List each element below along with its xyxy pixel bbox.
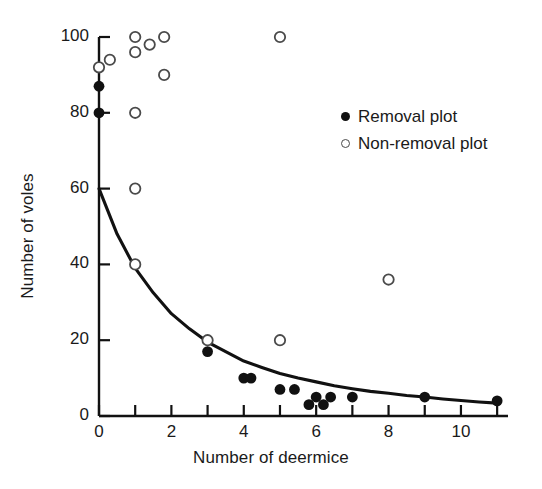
data-point-non-removal — [159, 32, 169, 42]
data-point-non-removal — [159, 70, 169, 80]
y-tick-label: 40 — [45, 253, 89, 273]
data-point-non-removal — [275, 335, 285, 345]
data-point-non-removal — [130, 108, 140, 118]
data-point-non-removal — [383, 274, 393, 284]
data-point-non-removal — [144, 39, 154, 49]
data-point-removal — [347, 392, 358, 403]
y-tick-label: 20 — [45, 329, 89, 349]
y-axis-title: Number of voles — [18, 126, 38, 346]
data-point-non-removal — [130, 47, 140, 57]
data-point-non-removal — [130, 183, 140, 193]
data-point-removal — [94, 107, 105, 118]
y-tick-label: 60 — [45, 178, 89, 198]
x-tick-label: 8 — [369, 422, 409, 442]
filled-circle-icon — [337, 112, 353, 121]
data-point-non-removal — [275, 32, 285, 42]
data-point-non-removal — [202, 335, 212, 345]
y-tick-label: 80 — [45, 102, 89, 122]
x-tick-label: 4 — [224, 422, 264, 442]
data-point-removal — [202, 346, 213, 357]
data-point-non-removal — [130, 259, 140, 269]
data-point-non-removal — [94, 62, 104, 72]
data-point-removal — [275, 384, 286, 395]
open-circle-icon — [337, 139, 353, 148]
data-point-removal — [94, 81, 105, 92]
x-axis-title: Number of deermice — [0, 448, 542, 468]
x-tick-label: 6 — [296, 422, 336, 442]
legend-label-non-removal-plot: Non-removal plot — [358, 134, 487, 154]
legend-item-non-removal-plot: Non-removal plot — [337, 130, 487, 157]
data-point-removal — [492, 395, 503, 406]
data-point-removal — [325, 392, 336, 403]
data-point-removal — [246, 373, 257, 384]
data-point-removal — [419, 392, 430, 403]
chart-legend: Removal plot Non-removal plot — [337, 103, 487, 157]
data-point-non-removal — [130, 32, 140, 42]
legend-label-removal-plot: Removal plot — [358, 107, 457, 127]
data-point-non-removal — [105, 55, 115, 65]
x-tick-label: 0 — [79, 422, 119, 442]
scatter-plot-figure: Number of voles Number of deermice 02040… — [0, 0, 542, 489]
y-tick-label: 100 — [45, 26, 89, 46]
data-point-removal — [289, 384, 300, 395]
x-tick-label: 2 — [151, 422, 191, 442]
legend-item-removal-plot: Removal plot — [337, 103, 487, 130]
x-tick-label: 10 — [441, 422, 481, 442]
